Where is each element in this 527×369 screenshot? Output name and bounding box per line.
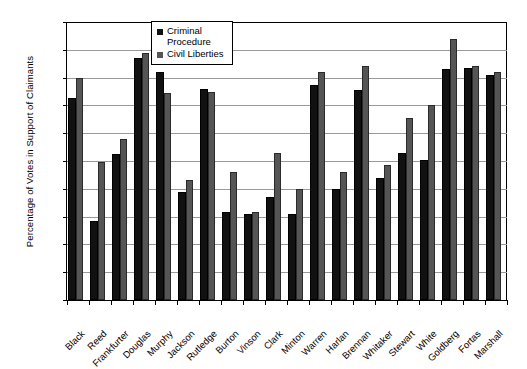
x-tick-mark — [507, 300, 508, 305]
x-tick-mark — [419, 300, 420, 305]
bar — [76, 78, 83, 300]
bar-group — [375, 22, 397, 300]
bar-group — [353, 22, 375, 300]
x-tick-mark — [265, 300, 266, 305]
bar — [230, 172, 237, 300]
bar — [472, 66, 479, 300]
x-tick-mark — [111, 300, 112, 305]
bar — [164, 93, 171, 300]
x-tick-mark — [243, 300, 244, 305]
bar — [120, 139, 127, 300]
bar — [90, 221, 97, 300]
bar — [200, 89, 207, 300]
bar — [494, 72, 501, 300]
bar-group — [441, 22, 463, 300]
x-tick-mark — [133, 300, 134, 305]
bar — [244, 214, 251, 300]
bar — [442, 69, 449, 300]
x-tick-mark — [177, 300, 178, 305]
plot-area: 100%90%80%70%60%50%40%30%20%10%0% BlackR… — [66, 22, 507, 301]
bar — [340, 172, 347, 300]
bar-group — [243, 22, 265, 300]
chart-legend: Criminal Procedure Civil Liberties — [151, 21, 233, 65]
x-tick-mark — [155, 300, 156, 305]
legend-item-civil-liberties: Civil Liberties — [157, 49, 224, 60]
bar-group — [397, 22, 419, 300]
bar — [186, 180, 193, 300]
bar-group — [67, 22, 89, 300]
bar — [112, 154, 119, 300]
bar — [450, 39, 457, 300]
bar — [420, 160, 427, 300]
x-tick-mark — [485, 300, 486, 305]
bar — [156, 72, 163, 300]
bar — [398, 153, 405, 300]
x-tick-mark — [309, 300, 310, 305]
x-tick-mark — [287, 300, 288, 305]
bar-chart: Percentage of Votes in Support of Claima… — [0, 0, 527, 369]
bar-group — [89, 22, 111, 300]
x-tick-mark — [67, 300, 68, 305]
legend-item-label: Criminal Procedure — [167, 26, 211, 47]
x-tick-mark — [353, 300, 354, 305]
x-tick-mark — [89, 300, 90, 305]
bar — [208, 92, 215, 301]
bar — [384, 165, 391, 300]
legend-item-label: Civil Liberties — [167, 49, 224, 60]
bar — [406, 118, 413, 300]
legend-swatch-icon — [157, 52, 163, 58]
x-tick-mark — [441, 300, 442, 305]
bar-group — [419, 22, 441, 300]
bar-group — [287, 22, 309, 300]
x-tick-mark — [199, 300, 200, 305]
bar — [310, 85, 317, 300]
x-tick-mark — [375, 300, 376, 305]
bar — [354, 90, 361, 300]
legend-swatch-icon — [157, 29, 163, 35]
bar — [318, 72, 325, 300]
bar — [296, 189, 303, 300]
bar — [464, 68, 471, 300]
bar-group — [111, 22, 133, 300]
bar — [332, 189, 339, 300]
bar — [142, 53, 149, 300]
bar-group — [265, 22, 287, 300]
y-axis-title: Percentage of Votes in Support of Claima… — [24, 27, 35, 277]
bar — [98, 162, 105, 300]
legend-item-criminal-procedure: Criminal Procedure — [157, 26, 224, 47]
bar — [252, 212, 259, 300]
x-tick-mark — [221, 300, 222, 305]
bar — [274, 153, 281, 300]
bar — [428, 105, 435, 300]
x-tick-mark — [331, 300, 332, 305]
bar-group — [331, 22, 353, 300]
bar — [134, 58, 141, 300]
x-tick-mark — [463, 300, 464, 305]
bar — [222, 212, 229, 300]
bar — [266, 197, 273, 300]
bar — [68, 98, 75, 300]
bar — [486, 75, 493, 300]
x-tick-mark — [397, 300, 398, 305]
bar — [288, 214, 295, 300]
bar-group — [485, 22, 507, 300]
bar — [362, 66, 369, 300]
bar — [178, 192, 185, 300]
bar-group — [309, 22, 331, 300]
bar — [376, 178, 383, 300]
bar-group — [463, 22, 485, 300]
